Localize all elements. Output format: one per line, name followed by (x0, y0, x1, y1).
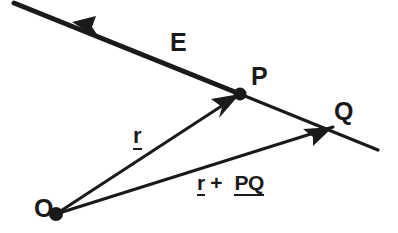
label-sum-pq-text: PQ (234, 172, 263, 196)
vector-r-line (56, 94, 240, 214)
vector-diagram-figure: E P Q O r r + PQ (0, 0, 398, 233)
vector-r-plus-pq-line (56, 127, 333, 214)
label-point-o: O (34, 196, 53, 221)
label-point-p: P (251, 64, 268, 89)
label-vector-r-plus-pq: r + PQ (197, 172, 264, 196)
point-marker-p (234, 88, 247, 101)
label-vector-r-text: r (133, 125, 142, 150)
label-sum-r-text: r (197, 172, 205, 196)
field-line-E-thick-segment (14, 3, 240, 94)
field-line-E-thin-segment (240, 94, 378, 150)
label-vector-r: r (133, 125, 142, 150)
label-field-line-E: E (170, 30, 187, 55)
label-sum-plus-sign: + (208, 172, 224, 193)
label-point-q: Q (334, 99, 353, 124)
